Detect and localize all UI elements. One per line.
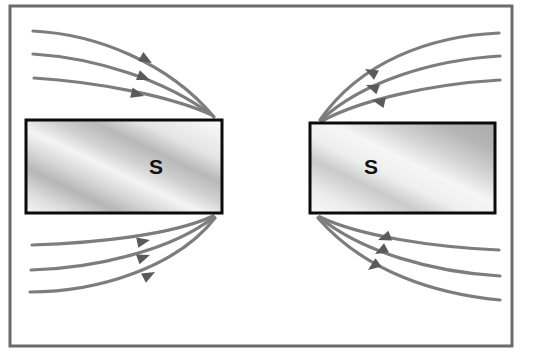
- lower-left-lines: [30, 216, 215, 292]
- lower-right-lines: [318, 217, 500, 300]
- upper-left-lines: [33, 31, 214, 117]
- field-line-arrowhead-icon: [364, 80, 380, 94]
- left-magnet-body: [26, 120, 222, 213]
- field-line: [30, 218, 215, 292]
- magnetic-field-diagram: S S: [0, 0, 533, 363]
- left-magnet: S: [26, 120, 222, 213]
- field-line: [320, 33, 499, 120]
- left-magnet-pole-label: S: [149, 155, 163, 178]
- field-line: [33, 54, 213, 116]
- field-line-arrowhead-icon: [136, 70, 152, 85]
- right-magnet-body: [310, 123, 495, 213]
- field-line-arrowhead-icon: [376, 231, 392, 245]
- diagram-canvas: S S: [0, 0, 533, 363]
- right-magnet-pole-label: S: [364, 155, 378, 178]
- upper-right-lines: [320, 33, 500, 121]
- field-line: [32, 216, 213, 245]
- field-line: [318, 218, 500, 300]
- right-magnet: S: [310, 123, 495, 213]
- field-line-arrowhead-icon: [373, 243, 389, 258]
